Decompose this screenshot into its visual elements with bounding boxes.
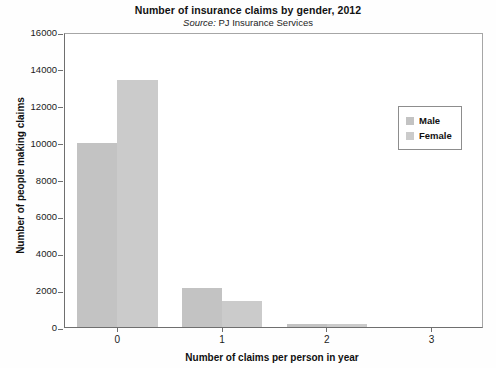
bar: [182, 288, 222, 327]
y-tick-label: 16000: [31, 27, 57, 38]
y-tick-mark: [58, 181, 63, 182]
y-tick-label: 2000: [36, 285, 57, 296]
y-tick-mark: [58, 255, 63, 256]
legend-label: Female: [419, 130, 452, 141]
y-tick-mark: [58, 34, 63, 35]
bar: [77, 143, 117, 327]
legend-swatch-icon: [406, 117, 414, 125]
y-tick-label: 4000: [36, 248, 57, 259]
y-tick-mark: [58, 329, 63, 330]
legend-item[interactable]: Male: [406, 113, 454, 128]
y-tick-mark: [58, 292, 63, 293]
legend-swatch-icon: [406, 132, 414, 140]
x-tick-label: 0: [97, 334, 137, 345]
y-tick-mark: [58, 107, 63, 108]
y-tick-label: 12000: [31, 101, 57, 112]
y-tick-label: 6000: [36, 211, 57, 222]
bar: [287, 324, 327, 327]
y-tick-mark: [58, 218, 63, 219]
y-tick-label: 0: [52, 322, 57, 333]
x-axis-title: Number of claims per person in year: [60, 352, 484, 363]
chart-page: Number of insurance claims by gender, 20…: [0, 0, 496, 368]
bar: [327, 324, 367, 327]
y-tick-label: 14000: [31, 64, 57, 75]
bar: [117, 80, 157, 327]
x-tick-mark: [326, 327, 327, 332]
x-tick-label: 1: [202, 334, 242, 345]
plot-area: 0200040006000800010000120001400016000 01…: [64, 33, 483, 328]
legend-label: Male: [419, 115, 440, 126]
chart-title: Number of insurance claims by gender, 20…: [0, 4, 496, 16]
y-tick-label: 10000: [31, 138, 57, 149]
x-tick-label: 2: [307, 334, 347, 345]
y-tick-label: 8000: [36, 175, 57, 186]
legend-item[interactable]: Female: [406, 128, 454, 143]
chart-legend: MaleFemale: [398, 106, 462, 150]
chart-source-subtitle: Source: PJ Insurance Services: [0, 17, 496, 28]
y-tick-mark: [58, 70, 63, 71]
source-value: PJ Insurance Services: [216, 17, 313, 28]
y-axis-title: Number of people making claims: [15, 76, 26, 276]
source-label: Source:: [183, 17, 216, 28]
y-tick-mark: [58, 144, 63, 145]
x-tick-mark: [431, 327, 432, 332]
x-tick-mark: [117, 327, 118, 332]
x-tick-label: 3: [412, 334, 452, 345]
bar: [222, 301, 262, 327]
x-tick-mark: [222, 327, 223, 332]
